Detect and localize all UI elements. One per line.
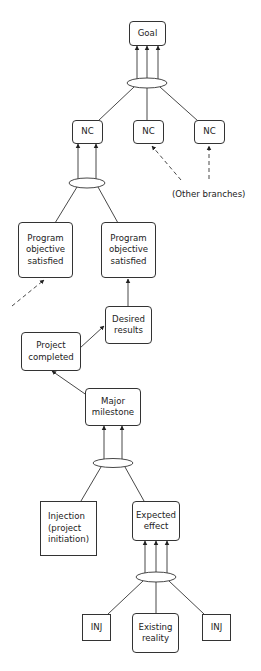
node-nc-1: NC bbox=[72, 120, 103, 144]
node-program-objective-left-label: Program objective satisfied bbox=[26, 233, 65, 268]
node-program-objective-left: Program objective satisfied bbox=[18, 222, 73, 278]
node-nc-2: NC bbox=[133, 120, 164, 144]
node-major-milestone: Major milestone bbox=[85, 388, 141, 426]
node-inj-right: INJ bbox=[202, 614, 231, 641]
and-junction-effect bbox=[136, 572, 176, 582]
node-existing-reality-label: Existing reality bbox=[138, 622, 172, 645]
node-injection: Injection (project initiation) bbox=[40, 501, 97, 556]
node-goal: Goal bbox=[129, 21, 166, 46]
node-project-completed-label: Project completed bbox=[28, 340, 74, 363]
node-program-objective-right-label: Program objective satisfied bbox=[109, 233, 148, 268]
node-goal-label: Goal bbox=[138, 28, 158, 40]
node-inj-left-label: INJ bbox=[91, 622, 103, 634]
and-junction-goal bbox=[127, 78, 167, 88]
node-inj-right-label: INJ bbox=[211, 622, 223, 634]
node-project-completed: Project completed bbox=[21, 332, 81, 371]
node-desired-results-label: Desired results bbox=[112, 314, 145, 337]
node-desired-results: Desired results bbox=[105, 306, 152, 344]
node-nc-2-label: NC bbox=[142, 126, 154, 138]
node-injection-label: Injection (project initiation) bbox=[48, 511, 89, 546]
node-nc-3-label: NC bbox=[203, 126, 215, 138]
node-nc-1-label: NC bbox=[81, 126, 93, 138]
node-nc-3: NC bbox=[194, 120, 225, 144]
other-branches-label: (Other branches) bbox=[172, 189, 245, 199]
node-expected-effect-label: Expected effect bbox=[136, 510, 176, 533]
node-expected-effect: Expected effect bbox=[132, 501, 180, 541]
node-major-milestone-label: Major milestone bbox=[92, 396, 134, 419]
node-program-objective-right: Program objective satisfied bbox=[101, 222, 156, 278]
and-junction-nc bbox=[69, 178, 105, 188]
and-junction-milestone bbox=[93, 459, 133, 468]
node-existing-reality: Existing reality bbox=[132, 613, 179, 653]
node-inj-left: INJ bbox=[82, 614, 111, 641]
